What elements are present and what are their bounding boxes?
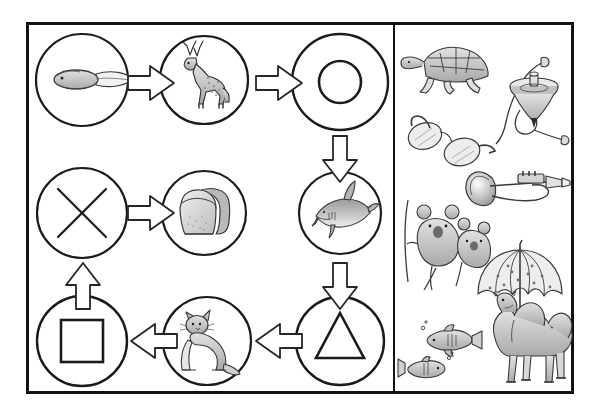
arrow-down-2-hit[interactable] [323, 263, 357, 309]
arrow-right-3-hit[interactable] [128, 198, 174, 232]
node-circle-hit[interactable]: circle [292, 34, 388, 130]
arrow-up-1-hit[interactable] [66, 263, 100, 309]
pic-fish-hit[interactable]: fish [394, 312, 486, 382]
pic-koalas-hit[interactable]: koalas [400, 196, 486, 284]
arrow-right-2-hit[interactable] [256, 66, 302, 100]
node-shark-hit[interactable]: shark [299, 172, 381, 254]
pic-camel-hit[interactable]: camel [484, 288, 576, 388]
arrow-down-1-hit[interactable] [323, 136, 357, 182]
node-tadpole-hit[interactable]: tadpole [36, 34, 128, 126]
arrow-left-1-hit[interactable] [256, 324, 302, 358]
node-square-hit[interactable]: square [37, 296, 127, 386]
node-cross-hit[interactable]: cross [37, 168, 127, 258]
pic-spinning-top-hit[interactable]: spinning top with string [490, 36, 570, 144]
arrow-right-1-hit[interactable] [128, 66, 174, 100]
pic-turtle-hit[interactable]: turtle [402, 36, 494, 98]
node-triangle-hit[interactable]: triangle [296, 297, 384, 385]
arrow-left-2-hit[interactable] [131, 324, 177, 358]
node-bread-hit[interactable]: bread loaf [162, 171, 246, 255]
worksheet-page: tadpole deer circle shark triangle cat s… [0, 0, 597, 420]
pic-glasses-hit[interactable]: eyeglasses [404, 112, 500, 168]
